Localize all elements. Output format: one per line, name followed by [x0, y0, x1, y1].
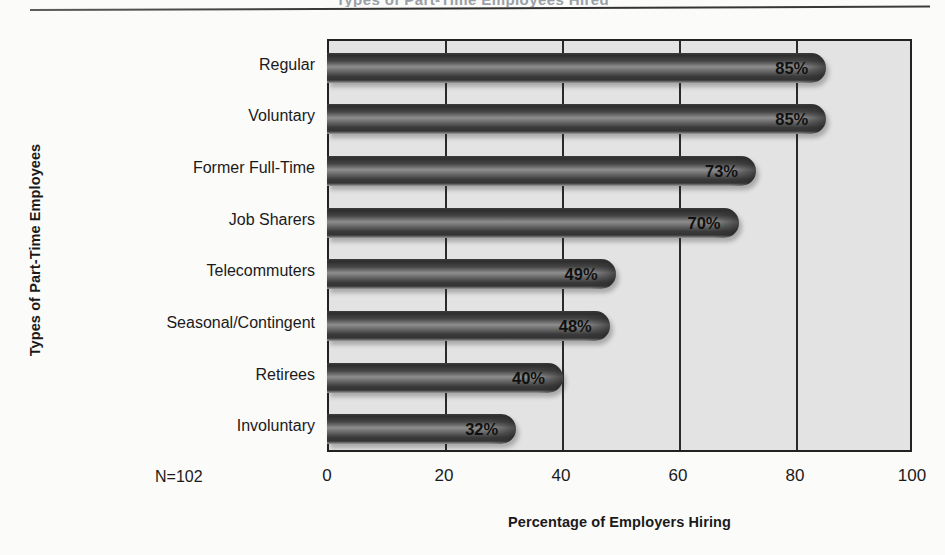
x-axis-tick-labels: 020406080100 — [327, 466, 912, 490]
bar-row: 32% — [329, 414, 518, 444]
x-tick-label-40: 40 — [552, 466, 571, 486]
bar-value-label: 85% — [775, 53, 808, 83]
category-label: Telecommuters — [60, 263, 315, 279]
bar — [327, 156, 756, 186]
bar-value-label: 73% — [705, 156, 738, 186]
bar — [327, 208, 739, 238]
x-tick-label-0: 0 — [322, 466, 331, 486]
bar-series: 85%85%73%70%49%48%40%32% — [329, 41, 910, 450]
bar-value-label: 48% — [559, 311, 592, 341]
category-label: Retirees — [60, 367, 315, 383]
bar-row: 85% — [329, 104, 828, 134]
y-axis-title: Types of Part-Time Employees — [27, 80, 43, 420]
bar-row: 49% — [329, 259, 618, 289]
category-axis-labels: RegularVoluntaryFormer Full-TimeJob Shar… — [60, 39, 315, 452]
category-label: Job Sharers — [60, 212, 315, 228]
x-tick-label-60: 60 — [669, 466, 688, 486]
bar-value-label: 70% — [687, 208, 720, 238]
category-label: Former Full-Time — [60, 160, 315, 176]
bar — [327, 104, 826, 134]
x-tick-label-80: 80 — [786, 466, 805, 486]
bar-value-label: 85% — [775, 104, 808, 134]
category-label: Voluntary — [60, 108, 315, 124]
sample-size-annotation: N=102 — [155, 468, 203, 486]
bar-row: 40% — [329, 363, 565, 393]
bar-row: 70% — [329, 208, 741, 238]
bar — [327, 53, 826, 83]
bar-value-label: 49% — [565, 259, 598, 289]
x-tick-label-100: 100 — [898, 466, 926, 486]
bar-value-label: 40% — [512, 363, 545, 393]
category-label: Seasonal/Contingent — [60, 315, 315, 331]
bar-value-label: 32% — [465, 414, 498, 444]
bar-row: 48% — [329, 311, 612, 341]
x-tick-label-20: 20 — [435, 466, 454, 486]
bar-row: 85% — [329, 53, 828, 83]
bar-row: 73% — [329, 156, 758, 186]
category-label: Regular — [60, 57, 315, 73]
chart-page: Types of Part-Time Employees Hired Types… — [0, 0, 945, 555]
x-axis-title: Percentage of Employers Hiring — [327, 514, 912, 530]
plot-area: 85%85%73%70%49%48%40%32% — [327, 39, 912, 452]
category-label: Involuntary — [60, 418, 315, 434]
